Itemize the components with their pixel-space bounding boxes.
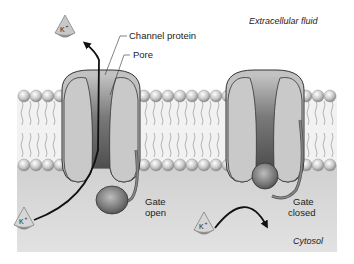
gate-closed-label-line2: closed <box>288 207 315 218</box>
channel-protein-label: Channel protein <box>129 30 196 41</box>
svg-text:+: + <box>66 23 69 29</box>
gate-open-label-line2: open <box>145 207 166 218</box>
gate-ball-closed <box>252 163 278 189</box>
closed-channel <box>226 70 304 198</box>
cytosol-label: Cytosol <box>293 236 323 247</box>
svg-text:K: K <box>60 26 65 33</box>
svg-text:K: K <box>19 218 24 225</box>
potassium-ion-top: K+ <box>55 15 75 38</box>
extracellular-fluid-label: Extracellular fluid <box>249 16 318 27</box>
gate-closed-label-line1: Gate <box>293 196 314 207</box>
gate-ball-open <box>96 186 128 214</box>
svg-text:+: + <box>205 220 208 226</box>
pore-label: Pore <box>133 49 153 60</box>
gate-open-label-line1: Gate <box>145 196 166 207</box>
svg-text:K: K <box>199 223 204 230</box>
svg-text:+: + <box>25 215 28 221</box>
